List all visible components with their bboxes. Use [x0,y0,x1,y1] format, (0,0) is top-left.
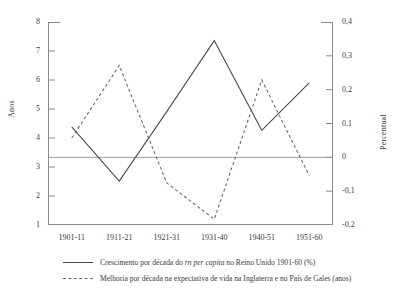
series-line-growth [72,41,310,181]
solid-line-swatch [63,262,93,263]
legend-item: Crescimento por década do rn per capita … [63,254,393,270]
y-axis-left-tick-label: 8 [0,17,40,26]
y-axis-right-tick-label: -0,2 [342,220,355,229]
y-axis-right-tick-label: 0,1 [342,119,352,128]
y-axis-left-tick-label: 4 [0,133,40,142]
y-axis-right-title: Percentual [379,114,388,150]
legend-item: Melhoria por década na expectativa de vi… [63,270,393,286]
chart-legend: Crescimento por década do rn per capita … [63,254,393,286]
plot-area [48,22,333,225]
y-axis-right-tick-label: 0 [342,152,346,161]
y-axis-right-tick-label: 0,2 [342,85,352,94]
dashed-line-swatch [63,278,93,279]
chart-figure: Anos Percentual 12345678 -0,2-0,100,10,2… [0,0,393,294]
legend-item-label: Melhoria por década na expectativa de vi… [100,274,351,283]
legend-item-label: Crescimento por década do rn per capita … [100,258,315,267]
y-axis-left-tick-label: 6 [0,75,40,84]
y-axis-left-tick-label: 3 [0,162,40,171]
x-axis-tick-label: 1951-60 [279,233,339,242]
y-axis-right-tick-label: -0,1 [342,186,355,195]
series-line-life-expectancy [72,66,310,220]
y-axis-right-tick-label: 0,3 [342,51,352,60]
y-axis-left-tick-label: 7 [0,46,40,55]
y-axis-left-tick-label: 1 [0,220,40,229]
y-axis-left-tick-label: 2 [0,191,40,200]
plot-svg [48,22,333,225]
y-axis-left-tick-label: 5 [0,104,40,113]
y-axis-right-tick-label: 0,4 [342,17,352,26]
